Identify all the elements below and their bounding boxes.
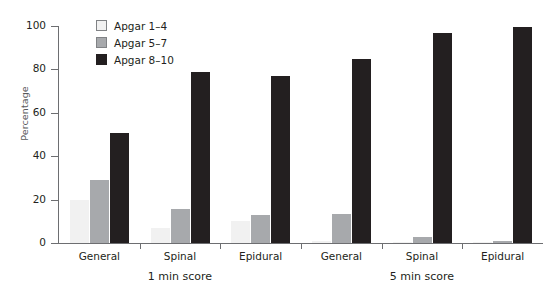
x-axis-category-label: General	[301, 250, 382, 262]
y-axis-tick-mark	[51, 243, 58, 244]
bar	[413, 237, 432, 244]
bar	[191, 72, 210, 243]
x-axis-category-label: Spinal	[382, 250, 463, 262]
bar	[251, 215, 270, 243]
legend-label: Apgar 5–7	[114, 37, 167, 49]
y-axis-tick-mark	[51, 113, 58, 114]
x-axis-section-label: 5 min score	[301, 270, 543, 283]
x-axis-group-separator	[301, 243, 302, 249]
y-axis-tick-label: 100	[26, 19, 46, 32]
y-axis-tick-mark	[51, 69, 58, 70]
apgar-score-bar-chart: Percentage 020406080100 GeneralSpinalEpi…	[0, 0, 551, 297]
legend-swatch-apgar-8-10	[96, 54, 107, 65]
legend: Apgar 1–4 Apgar 5–7 Apgar 8–10	[96, 18, 174, 69]
bar	[90, 180, 109, 243]
y-axis-tick-mark	[51, 26, 58, 27]
bar	[493, 241, 512, 243]
bar	[393, 242, 412, 243]
x-axis-group-separator	[462, 243, 463, 249]
bar	[433, 33, 452, 243]
legend-item: Apgar 8–10	[96, 52, 174, 67]
y-axis-tick-label: 20	[33, 193, 46, 206]
legend-swatch-apgar-5-7	[96, 37, 107, 48]
y-axis-tick: 60	[0, 113, 58, 114]
bar	[332, 214, 351, 243]
y-axis-tick: 100	[0, 26, 58, 27]
y-axis-tick: 40	[0, 156, 58, 157]
x-axis-group-separator	[382, 243, 383, 249]
bar	[70, 200, 89, 243]
legend-item: Apgar 5–7	[96, 35, 174, 50]
x-axis-category-label: Epidural	[220, 250, 301, 262]
x-axis-section-label: 1 min score	[59, 270, 301, 283]
x-axis-category-label: General	[59, 250, 140, 262]
bar	[151, 228, 170, 243]
y-axis-tick-label: 40	[33, 149, 46, 162]
y-axis-tick: 80	[0, 69, 58, 70]
y-axis-tick-mark	[51, 200, 58, 201]
legend-label: Apgar 1–4	[114, 20, 167, 32]
y-axis-tick: 0	[0, 243, 58, 244]
x-axis-group-separator	[140, 243, 141, 249]
bar	[171, 209, 190, 243]
bar	[312, 241, 331, 243]
legend-label: Apgar 8–10	[114, 54, 174, 66]
bar	[352, 59, 371, 243]
bar	[271, 76, 290, 243]
y-axis-tick-label: 80	[33, 62, 46, 75]
y-axis-tick-mark	[51, 156, 58, 157]
bar	[110, 133, 129, 243]
legend-item: Apgar 1–4	[96, 18, 174, 33]
x-axis-category-label: Spinal	[140, 250, 221, 262]
bar	[513, 27, 532, 243]
y-axis-tick: 20	[0, 200, 58, 201]
y-axis-tick-label: 0	[39, 236, 46, 249]
x-axis-category-label: Epidural	[462, 250, 543, 262]
legend-swatch-apgar-1-4	[96, 20, 107, 31]
bar	[231, 221, 250, 243]
bar	[473, 242, 492, 243]
y-axis-tick-label: 60	[33, 106, 46, 119]
x-axis-group-separator	[220, 243, 221, 249]
